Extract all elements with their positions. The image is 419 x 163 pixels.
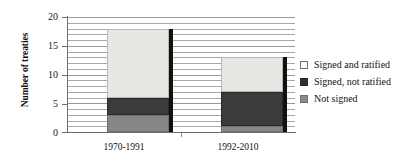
legend-label-not-signed: Not signed: [314, 93, 358, 105]
bar-1970-1991-segment-signed-not-ratified[interactable]: [107, 98, 169, 115]
legend-swatch-signed-icon: [300, 78, 308, 86]
y-axis-label-0-wrap: 0: [36, 128, 58, 138]
plot-area: [67, 17, 295, 132]
legend-swatch-notsigned-icon: [300, 95, 308, 103]
y-axis-line: [67, 16, 68, 133]
x-axis-tick-middle: [181, 133, 182, 137]
bar-1992-2010-segment-signed-and-ratified[interactable]: [221, 57, 283, 92]
gridline-19: [67, 23, 295, 24]
gridline-20: [67, 17, 295, 18]
gridline-17: [67, 34, 295, 35]
legend-swatch-ratified-icon: [300, 61, 308, 69]
y-axis-title: Number of treaties: [16, 5, 34, 135]
x-axis-label-1970-1991: 1970-1991: [67, 141, 181, 153]
legend-item-signed-not-ratified[interactable]: Signed, not ratified: [300, 74, 418, 90]
bar-1992-2010-shadow: [283, 57, 287, 132]
y-axis-label-20-wrap: 20: [36, 12, 58, 22]
bar-1992-2010-segment-signed-not-ratified[interactable]: [221, 92, 283, 127]
bar-1970-1991-segment-signed-and-ratified[interactable]: [107, 29, 169, 98]
bar-1970-1991-segment-not-signed[interactable]: [107, 115, 169, 132]
gridline-14: [67, 52, 295, 53]
y-axis-label-0: 0: [36, 128, 58, 138]
legend-label-signed-not-ratified: Signed, not ratified: [314, 76, 391, 88]
legend-item-not-signed[interactable]: Not signed: [300, 91, 418, 107]
bar-1970-1991[interactable]: [107, 29, 169, 133]
y-axis-label-10: 10: [36, 70, 58, 80]
legend: Signed and ratified Signed, not ratified…: [300, 57, 418, 108]
legend-item-signed-and-ratified[interactable]: Signed and ratified: [300, 57, 418, 73]
y-axis-label-5-wrap: 5: [36, 99, 58, 109]
y-axis-label-15-wrap: 15: [36, 41, 58, 51]
gridline-18: [67, 29, 295, 30]
y-axis-label-10-wrap: 10: [36, 70, 58, 80]
legend-label-signed-and-ratified: Signed and ratified: [314, 59, 390, 71]
y-axis-label-15: 15: [36, 41, 58, 51]
y-axis-label-20: 20: [36, 12, 58, 22]
x-axis-label-1992-2010: 1992-2010: [181, 141, 295, 153]
gridline-15: [67, 46, 295, 47]
gridline-16: [67, 40, 295, 41]
stacked-bar-chart: Number of treaties 20 15 10 5 0: [0, 0, 419, 163]
bar-1970-1991-shadow: [169, 29, 173, 133]
y-axis-label-5: 5: [36, 99, 58, 109]
bar-1992-2010[interactable]: [221, 57, 283, 132]
